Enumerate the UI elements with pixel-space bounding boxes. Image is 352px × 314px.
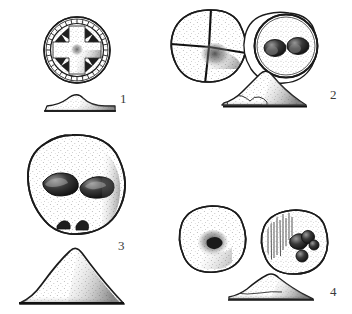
figure-1-plan-view [44, 15, 110, 83]
figure-4-plan-reverse-view [261, 210, 327, 274]
figure-number-1: 1 [120, 92, 127, 105]
figure-number-2: 2 [330, 88, 337, 101]
figure-2-plan-obverse-view [171, 9, 246, 84]
figure-3-plan-view [28, 135, 125, 234]
figure-number-3: 3 [118, 239, 125, 252]
figure-number-4: 4 [330, 285, 337, 298]
artifact-plate [0, 0, 352, 314]
figure-4-plan-obverse-view [179, 206, 245, 272]
figure-2-plan-reverse-view [244, 12, 318, 83]
